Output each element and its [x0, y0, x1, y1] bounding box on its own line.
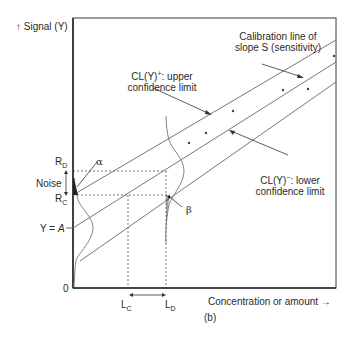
origin-label: 0	[63, 283, 69, 294]
y-equals-a-label: Y = A	[40, 223, 65, 234]
plot-frame	[73, 18, 336, 288]
lower-confidence-label: CL(Y)−: lower confidence limit	[244, 172, 336, 197]
upper-confidence-label: CL(Y)+: upper confidence limit	[121, 68, 203, 93]
beta-label: β	[186, 204, 192, 215]
rc-label: RC	[55, 193, 67, 208]
beta-marker	[168, 196, 171, 199]
panel-label: (b)	[204, 312, 216, 323]
rd-label: RD	[55, 156, 67, 171]
beta-tail	[166, 195, 170, 243]
lower-cl-pointer	[231, 131, 288, 155]
arrowhead-icon	[205, 110, 212, 115]
arrowhead-icon	[229, 130, 235, 135]
lc-label: LC	[121, 299, 132, 314]
alpha-label: α	[96, 156, 103, 167]
calibration-line-label: Calibration line of slope S (sensitivity…	[228, 31, 328, 53]
x-axis-label: Concentration or amount →	[208, 296, 331, 307]
calibration-points	[188, 55, 335, 144]
ld-label: LD	[165, 299, 176, 314]
up-arrow-icon: ↑	[16, 21, 21, 32]
calibration-line	[73, 62, 336, 228]
arrowhead-icon	[297, 74, 304, 78]
beta-pointer	[170, 197, 182, 207]
noise-label: Noise	[36, 178, 62, 189]
calibration-pointer	[262, 64, 302, 77]
right-arrow-icon: →	[321, 296, 331, 307]
arrowhead-icon	[129, 293, 133, 297]
arrowhead-icon	[162, 293, 166, 297]
y-axis-label: ↑ Signal (Y)	[16, 21, 68, 32]
alpha-pointer	[77, 162, 97, 187]
